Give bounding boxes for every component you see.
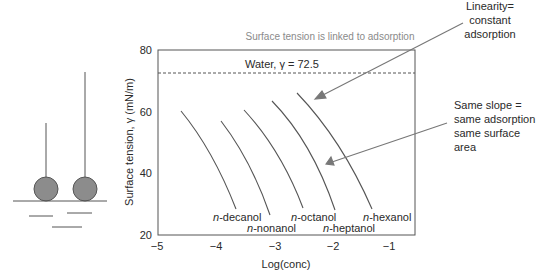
chart-title: Surface tension is linked to adsorption <box>246 31 415 42</box>
arrowhead-linearity-icon <box>315 91 326 99</box>
surfactant-head-2 <box>73 177 97 201</box>
y-axis: 80 60 40 20 Surface tension, γ (mN/m) <box>123 44 152 241</box>
annotation-slope-line-3: same surface <box>454 127 520 139</box>
annotation-slope: Same slope = same adsorption same surfac… <box>454 99 535 153</box>
annotation-linearity-line-3: adsorption <box>464 28 515 40</box>
x-tick-minus4: −4 <box>210 240 223 252</box>
annotation-slope-line-4: area <box>454 141 477 153</box>
y-tick-60: 60 <box>140 106 152 118</box>
x-tick-minus1: −1 <box>383 240 396 252</box>
annotation-linearity: Linearity= constant adsorption <box>464 0 515 40</box>
annotation-slope-line-1: Same slope = <box>454 99 522 111</box>
y-axis-label: Surface tension, γ (mN/m) <box>123 78 135 206</box>
curves <box>181 93 372 215</box>
curve-heptanol <box>272 101 335 210</box>
curve-nonanol <box>221 121 270 215</box>
plot-area <box>158 50 415 235</box>
x-tick-minus2: −2 <box>327 240 340 252</box>
curve-octanol <box>244 110 303 208</box>
label-hexanol: n-hexanol <box>363 211 411 223</box>
y-tick-80: 80 <box>140 44 152 56</box>
surface-tension-figure: Surface tension is linked to adsorption … <box>0 0 536 273</box>
curve-hexanol <box>297 93 372 209</box>
annotation-slope-line-2: same adsorption <box>454 113 535 125</box>
label-nonanol: n-nonanol <box>247 222 296 234</box>
curve-decanol <box>181 111 236 209</box>
x-axis: −5 −4 −3 −2 −1 Log(conc) <box>151 240 396 270</box>
annotation-linearity-line-1: Linearity= <box>466 0 514 12</box>
curve-labels: n-decanol n-nonanol n-octanol n-heptanol… <box>213 211 411 234</box>
x-tick-minus5: −5 <box>151 240 164 252</box>
y-tick-40: 40 <box>140 167 152 179</box>
label-heptanol: n-heptanol <box>323 222 375 234</box>
annotation-linearity-line-2: constant <box>469 14 511 26</box>
water-label: Water, γ = 72.5 <box>245 58 319 70</box>
x-tick-minus3: −3 <box>269 240 282 252</box>
surfactant-illustration <box>13 72 107 227</box>
arrowhead-slope-icon <box>326 157 334 165</box>
surfactant-head-1 <box>34 177 58 201</box>
x-axis-label: Log(conc) <box>262 258 311 270</box>
arrow-slope <box>332 123 447 162</box>
